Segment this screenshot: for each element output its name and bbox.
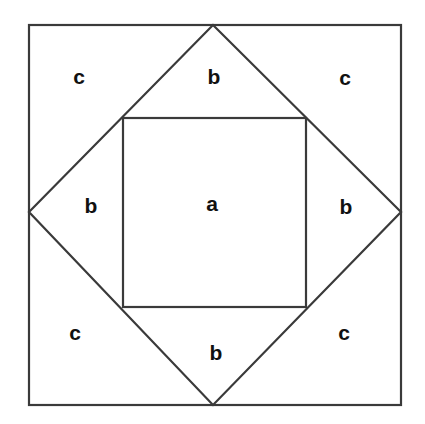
diagram-figure: c b c b a b c b c [0, 0, 425, 424]
region-label-b-top: b [208, 66, 221, 87]
region-label-c-top-right: c [339, 67, 351, 88]
region-label-b-right: b [340, 196, 353, 217]
region-label-b-left: b [85, 195, 98, 216]
region-label-c-bottom-right: c [338, 322, 350, 343]
region-label-c-bottom-left: c [69, 322, 81, 343]
region-label-b-bottom: b [210, 342, 223, 363]
region-label-c-top-left: c [73, 66, 85, 87]
region-label-a-center: a [206, 193, 218, 214]
